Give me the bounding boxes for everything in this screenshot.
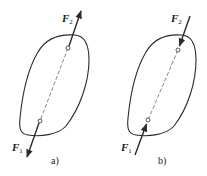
panel-caption-a: a) xyxy=(51,155,59,167)
force-label-f2-a: F2 xyxy=(61,12,73,26)
two-force-body-diagram: F2 F1 a) F2 F1 b) xyxy=(0,0,207,176)
line-of-action-a xyxy=(40,48,68,121)
panel-caption-b: b) xyxy=(158,155,166,167)
force-f2-arrow-a xyxy=(69,11,81,46)
force-f1-arrow-a xyxy=(27,123,39,157)
force-label-f2-b: F2 xyxy=(170,12,182,26)
application-point-bottom-b xyxy=(146,118,150,122)
force-label-f1-b: F1 xyxy=(120,141,132,155)
panel-b: F2 F1 b) xyxy=(120,12,196,167)
rigid-body-outline-b xyxy=(128,35,196,136)
panel-a: F2 F1 a) xyxy=(11,11,89,167)
application-point-top-a xyxy=(66,46,70,50)
force-f1-arrow-b xyxy=(135,124,147,155)
force-label-f1-a: F1 xyxy=(11,141,23,155)
application-point-bottom-a xyxy=(38,119,42,123)
application-point-top-b xyxy=(176,48,180,52)
line-of-action-b xyxy=(148,50,178,120)
rigid-body-outline-a xyxy=(20,35,89,136)
